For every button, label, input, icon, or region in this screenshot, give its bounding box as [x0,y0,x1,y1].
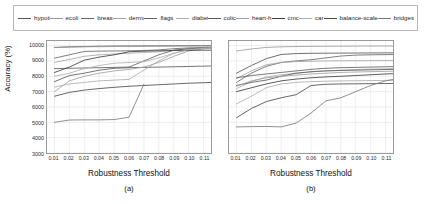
x-tick-label: 0.01 [230,155,240,161]
y-tick-label: 10000 [29,42,44,48]
x-tick-label: 0.03 [261,155,271,161]
y-tick-label: 4000 [32,135,44,141]
y-tick-label: 9000 [32,57,44,63]
series-line-hypothyroid [236,46,393,51]
x-tick-label: 0.03 [79,155,89,161]
legend-item-label: flags [160,13,173,23]
legend-item-car[interactable]: car [299,13,324,23]
series-line-heart-h [54,48,211,91]
plot-svg-b [229,41,393,153]
legend-line-swatch-icon [81,18,94,19]
figure-root: hypothyroidecolibreast-cancerdermatology… [0,0,431,204]
series-line-breast-cancer [236,55,393,83]
x-axis-label-b: Robustness Threshold [228,169,394,178]
legend-item-label: colic [224,13,236,23]
x-tick-labels-a: 0.010.020.030.040.050.060.070.080.090.10… [46,155,212,167]
series-line-ecoli [54,46,211,48]
legend-item-diabetes[interactable]: diabetes [176,13,208,23]
legend-item-colic[interactable]: colic [208,13,236,23]
y-axis-label-a: Accuracy (%) [3,36,12,102]
x-tick-label: 0.05 [109,155,119,161]
legend-item-label: cmc [288,13,299,23]
series-line-balance-scale [236,83,393,117]
y-tick-label: 7000 [32,89,44,95]
legend-item-balance-scale[interactable]: balance-scale [324,13,378,23]
x-tick-label: 0.11 [200,155,210,161]
x-tick-label: 0.06 [124,155,134,161]
x-tick-label: 0.07 [321,155,331,161]
legend-line-swatch-icon [18,18,31,19]
y-tick-label: 8000 [32,73,44,79]
chart-panel-a: Accuracy (%) 300040005000600070008000900… [0,36,216,204]
legend-item-label: heart-h [252,13,272,23]
x-tick-label: 0.02 [64,155,74,161]
series-line-bridges [236,79,393,127]
legend-item-label: balance-scale [340,13,378,23]
legend-item-ecoli[interactable]: ecoli [50,13,82,23]
legend-line-swatch-icon [144,18,157,19]
plot-svg-a [47,41,211,153]
legend-item-dermatology[interactable]: dermatology [113,13,145,23]
legend-item-label: bridges [394,13,414,23]
legend-item-hypothyroid[interactable]: hypothyroid [18,13,50,23]
x-tick-labels-b: 0.010.020.030.040.050.060.070.080.090.10… [228,155,394,167]
legend-item-label: hypothyroid [34,13,50,23]
legend-line-swatch-icon [378,18,391,19]
x-tick-label: 0.01 [48,155,58,161]
legend-item-label: breast-cancer [97,13,113,23]
legend-item-flags[interactable]: flags [144,13,176,23]
legend-line-swatch-icon [50,18,63,19]
x-axis-label-a: Robustness Threshold [46,169,212,178]
x-tick-label: 0.07 [139,155,149,161]
x-tick-label: 0.05 [291,155,301,161]
legend-item-heart-h[interactable]: heart-h [236,13,272,23]
legend-line-swatch-icon [176,18,189,19]
x-tick-label: 0.04 [276,155,286,161]
legend-line-swatch-icon [113,18,126,19]
legend-line-swatch-icon [324,18,337,19]
legend-item-label: diabetes [192,13,208,23]
plot-area-b [228,40,394,154]
legend-item-label: dermatology [129,13,145,23]
y-tick-label: 6000 [32,104,44,110]
x-tick-label: 0.02 [246,155,256,161]
x-tick-label: 0.08 [154,155,164,161]
x-tick-label: 0.09 [351,155,361,161]
x-tick-label: 0.10 [184,155,194,161]
legend-line-swatch-icon [272,18,285,19]
legend-item-bridges[interactable]: bridges [378,13,414,23]
legend-item-label: car [315,13,324,23]
x-tick-label: 0.11 [382,155,392,161]
x-tick-label: 0.10 [366,155,376,161]
legend-item-breast-cancer[interactable]: breast-cancer [81,13,113,23]
chart-legend: hypothyroidecolibreast-cancerdermatology… [13,5,418,31]
x-tick-label: 0.09 [169,155,179,161]
legend-line-swatch-icon [236,18,249,19]
legend-item-cmc[interactable]: cmc [272,13,299,23]
x-tick-label: 0.06 [306,155,316,161]
y-tick-label: 3000 [32,151,44,157]
x-tick-label: 0.04 [94,155,104,161]
plot-area-a [46,40,212,154]
series-line-balance-scale [54,82,211,96]
y-tick-labels-a: 300040005000600070008000900010000 [20,40,44,154]
panel-caption-a: (a) [46,184,212,193]
chart-panel-b: 0.010.020.030.040.050.060.070.080.090.10… [216,36,431,204]
x-tick-label: 0.08 [336,155,346,161]
y-tick-label: 5000 [32,120,44,126]
panel-caption-b: (b) [228,184,394,193]
legend-line-swatch-icon [299,18,312,19]
legend-line-swatch-icon [208,18,221,19]
legend-item-label: ecoli [66,13,79,23]
